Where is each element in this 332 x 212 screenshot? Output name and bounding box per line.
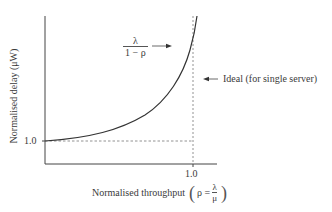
curve-formula-denominator: 1 − ρ	[123, 47, 148, 58]
x-axis-label-text: Normalised throughput	[92, 187, 185, 198]
x-axis-label-rho: ρ =	[197, 187, 210, 198]
curve-formula-numerator: λ	[131, 35, 140, 46]
paren-close: )	[221, 184, 227, 202]
curve-formula: λ 1 − ρ	[123, 35, 148, 58]
formula-arrowhead	[166, 44, 172, 48]
y-tick-label: 1.0	[24, 135, 37, 146]
y-axis-label: Normalised delay (μW)	[8, 49, 19, 144]
ideal-arrowhead	[203, 77, 209, 81]
chart-canvas	[0, 0, 332, 212]
x-axis-label-fraction: λ μ	[212, 182, 217, 203]
x-tick-label: 1.0	[185, 168, 198, 179]
x-axis-label-numerator: λ	[212, 182, 216, 192]
x-axis-label-denominator: μ	[212, 193, 217, 203]
ideal-annotation: Ideal (for single server)	[223, 73, 317, 84]
x-axis-label: Normalised throughput ( ρ = λ μ )	[92, 182, 227, 203]
paren-open: (	[189, 184, 195, 202]
delay-curve	[45, 16, 197, 141]
